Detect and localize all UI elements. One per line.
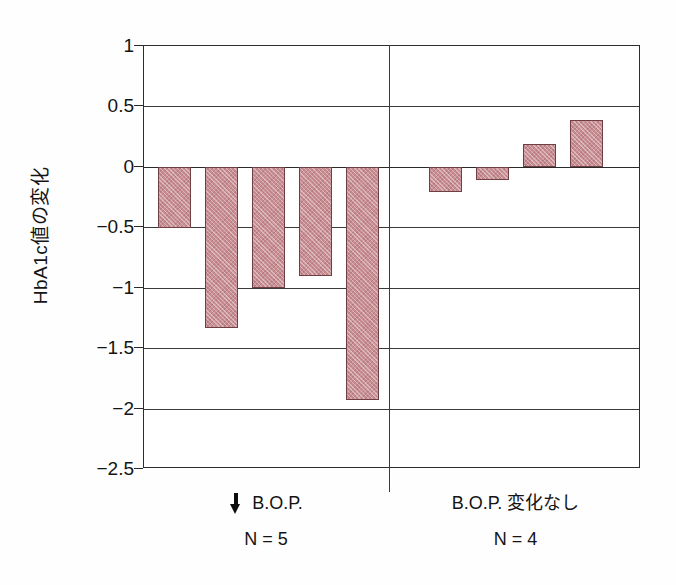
y-tick-label-5: −1.5: [60, 338, 134, 357]
y-tick-mark-3: [134, 226, 143, 227]
y-tick-label-2: 0: [60, 156, 134, 175]
y-axis-tick-labels: 10.50−0.5−1−1.5−2−2.5: [54, 0, 134, 585]
bar-bop-improved-2: [252, 167, 285, 288]
y-axis-title: HbA1c値の変化: [14, 0, 64, 470]
y-tick-mark-1: [134, 105, 143, 106]
group-1-title: B.O.P. 変化なし: [391, 490, 640, 518]
group-0-n: N = 5: [143, 526, 389, 554]
bar-bop-improved-4: [346, 167, 379, 400]
group-0-label: B.O.P.: [252, 490, 303, 518]
y-tick-mark-6: [134, 408, 143, 409]
y-tick-mark-7: [134, 468, 143, 469]
y-axis-title-text: HbA1c値の変化: [26, 166, 53, 304]
y-tick-label-1: 0.5: [60, 96, 134, 115]
y-tick-label-0: 1: [60, 36, 134, 55]
y-tick-mark-0: [134, 45, 143, 46]
group-1-n: N = 4: [391, 526, 640, 554]
y-tick-mark-5: [134, 347, 143, 348]
y-tick-label-4: −1: [60, 277, 134, 296]
gridline--1-5: [144, 348, 639, 349]
group-0-title: B.O.P.: [143, 490, 389, 518]
gridline-0-5: [144, 106, 639, 107]
x-axis-group-label-1: B.O.P. 変化なし N = 4: [391, 490, 640, 554]
bar-bop-improved-0: [158, 167, 191, 229]
y-tick-mark-2: [134, 166, 143, 167]
group-1-label: B.O.P. 変化なし: [452, 490, 580, 518]
y-tick-label-6: −2: [60, 398, 134, 417]
down-arrow-icon: [229, 493, 243, 515]
y-tick-label-3: −0.5: [60, 217, 134, 236]
plot-area: [143, 45, 640, 468]
gridline--2: [144, 409, 639, 410]
bar-bop-unchanged-2: [523, 144, 556, 167]
bar-bop-unchanged-0: [429, 167, 462, 192]
bar-bop-unchanged-3: [570, 120, 603, 167]
y-tick-label-7: −2.5: [60, 459, 134, 478]
bar-bop-improved-1: [205, 167, 238, 328]
bar-bop-improved-3: [299, 167, 332, 276]
bar-bop-unchanged-1: [476, 167, 509, 180]
x-axis-group-label-0: B.O.P. N = 5: [143, 490, 389, 554]
group-divider: [389, 45, 390, 492]
y-tick-mark-4: [134, 287, 143, 288]
chart-container: HbA1c値の変化 10.50−0.5−1−1.5−2−2.5 B.O.P. N…: [0, 0, 676, 585]
